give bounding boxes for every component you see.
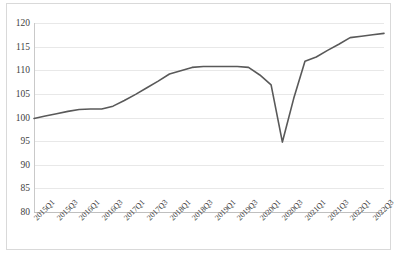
plot-area: 80859095100105110115120 2015Q12015Q32016… — [7, 4, 392, 251]
series-polyline — [34, 33, 384, 142]
chart-container: 80859095100105110115120 2015Q12015Q32016… — [6, 3, 391, 250]
